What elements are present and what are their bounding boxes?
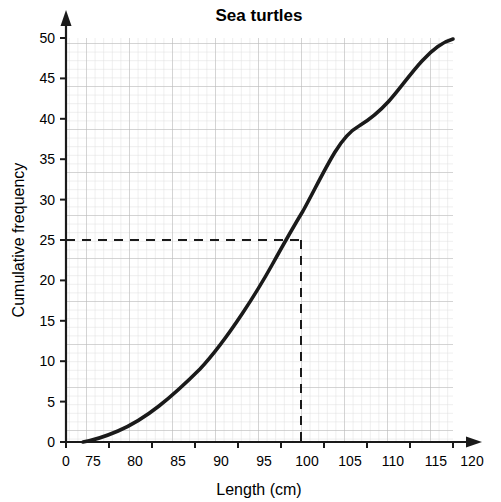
x-tick-105: 105 [338,453,362,469]
y-tick-45: 45 [39,70,55,86]
x-tick-110: 110 [382,453,405,469]
cumulative-frequency-chart: Sea turtles 0 5 10 [0,0,501,502]
y-tick-20: 20 [39,272,55,288]
y-tick-10: 10 [39,353,55,369]
y-tick-50: 50 [39,30,55,46]
chart-container: Sea turtles 0 5 10 [0,0,501,502]
y-tick-labels: 0 5 10 15 20 25 30 35 40 45 50 [39,30,55,450]
x-tick-100: 100 [295,453,319,469]
x-tick-120: 120 [460,453,484,469]
y-tick-30: 30 [39,192,55,208]
x-tick-labels: 0 75 80 85 90 95 100 105 110 115 120 [62,453,484,469]
y-tick-25: 25 [39,232,55,248]
y-tick-5: 5 [47,394,55,410]
x-tick-115: 115 [425,453,448,469]
x-tick-95: 95 [256,453,272,469]
x-tick-0: 0 [62,453,70,469]
y-tick-40: 40 [39,111,55,127]
x-tick-85: 85 [170,453,186,469]
chart-title: Sea turtles [216,6,303,25]
y-tick-35: 35 [39,151,55,167]
x-tick-75: 75 [85,453,101,469]
x-axis-label: Length (cm) [216,481,301,498]
y-axis-label: Cumulative frequency [10,163,27,318]
x-tick-90: 90 [213,453,229,469]
x-tick-80: 80 [127,453,143,469]
y-tick-0: 0 [47,434,55,450]
y-tick-15: 15 [39,313,55,329]
